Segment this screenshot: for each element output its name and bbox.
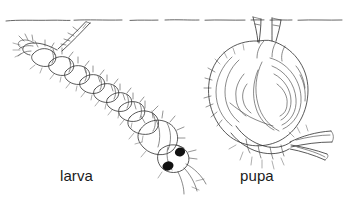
line-drawing-canvas: .ink { fill:none; stroke:#2f2f2f; stroke… xyxy=(0,0,349,216)
illustration-figure: .ink { fill:none; stroke:#2f2f2f; stroke… xyxy=(0,0,349,216)
label-pupa: pupa xyxy=(240,168,274,183)
label-larva: larva xyxy=(60,168,93,183)
background xyxy=(0,0,349,216)
